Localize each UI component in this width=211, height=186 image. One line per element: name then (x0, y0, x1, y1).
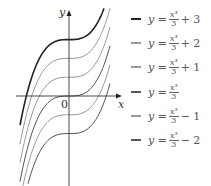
legend-item: y = x³3 + 2 (131, 31, 200, 55)
y-axis-label: y (59, 6, 65, 19)
y-axis-arrow-icon (67, 10, 72, 16)
legend-swatch (131, 91, 141, 93)
curve-line (23, 65, 110, 186)
legend-item: y = x³3 − 1 (131, 104, 200, 128)
plot-area (0, 0, 130, 186)
origin-label: 0 (61, 98, 68, 111)
legend-item: y = x³3 (131, 80, 181, 104)
curves (20, 8, 110, 185)
legend-swatch (131, 42, 141, 44)
curve-line (20, 27, 110, 163)
legend-item: y = x³3 − 2 (131, 128, 200, 152)
curve-line (20, 46, 110, 182)
x-axis-label: x (118, 98, 124, 111)
legend-swatch (131, 66, 141, 68)
legend-swatch (131, 139, 141, 141)
legend-swatch (131, 115, 141, 117)
legend-swatch (131, 18, 141, 20)
legend-item: y = x³3 + 3 (131, 7, 200, 31)
legend-item: y = x³3 + 1 (131, 55, 200, 79)
curve-line (20, 8, 110, 144)
